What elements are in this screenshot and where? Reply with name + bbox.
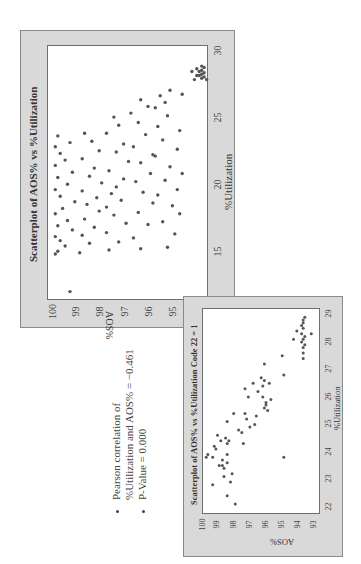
data-point	[269, 398, 272, 401]
tick-label: 100	[47, 304, 58, 319]
data-point	[134, 180, 137, 183]
data-point	[171, 204, 174, 207]
data-point	[218, 464, 221, 467]
data-point	[124, 222, 127, 225]
data-point	[168, 89, 171, 92]
data-point	[178, 212, 181, 215]
data-point	[221, 464, 224, 467]
data-point	[154, 106, 157, 109]
tick-label: 97	[244, 521, 253, 529]
data-point	[139, 161, 142, 164]
data-point	[88, 242, 91, 245]
tick-label: 25	[212, 112, 223, 122]
data-point	[68, 141, 71, 144]
data-point	[151, 201, 154, 204]
inset-chart-y-label: AOS%	[270, 537, 294, 547]
data-point	[240, 431, 243, 434]
tick-label: 15	[212, 247, 223, 257]
data-point	[302, 351, 305, 354]
bullet-pearson: Pearson correlation of %Utilization and …	[110, 322, 136, 500]
inset-chart-points	[203, 309, 321, 515]
data-point	[98, 209, 101, 212]
data-point	[105, 132, 108, 135]
data-point	[54, 164, 57, 167]
data-point	[68, 290, 71, 293]
data-point	[54, 212, 57, 215]
data-point	[302, 321, 305, 324]
tick-label: 99	[212, 521, 221, 529]
data-point	[59, 239, 62, 242]
data-point	[73, 200, 76, 203]
data-point	[234, 503, 237, 506]
data-point	[178, 129, 181, 132]
data-point	[226, 461, 229, 464]
bullet-pearson-line-1: Pearson correlation of	[110, 403, 122, 500]
tick-label: 28	[324, 337, 333, 345]
data-point	[213, 445, 216, 448]
data-point	[81, 234, 84, 237]
data-point	[255, 415, 258, 418]
data-point	[252, 382, 255, 385]
data-point	[223, 467, 226, 470]
data-point	[223, 475, 226, 478]
data-point	[193, 78, 196, 81]
inset-chart-plot-area	[202, 308, 320, 514]
data-point	[190, 70, 193, 73]
data-point	[66, 183, 69, 186]
data-point	[117, 240, 120, 243]
data-point	[56, 250, 59, 253]
data-point	[117, 124, 120, 127]
data-point	[54, 145, 57, 148]
data-point	[56, 176, 59, 179]
data-point	[137, 211, 140, 214]
data-point	[300, 341, 303, 344]
tick-label: 20	[212, 179, 223, 189]
data-point	[300, 332, 303, 335]
data-point	[81, 157, 84, 160]
data-point	[141, 191, 144, 194]
data-point	[226, 420, 229, 423]
tick-label: 97	[118, 307, 129, 317]
data-point	[181, 172, 184, 175]
data-point	[302, 338, 305, 341]
inset-chart-title: Scatterplot of AOS% vs %Utilization Code…	[189, 324, 199, 505]
data-point	[56, 224, 59, 227]
data-point	[211, 483, 214, 486]
data-point	[61, 207, 64, 210]
data-point	[120, 199, 123, 202]
data-point	[154, 154, 157, 157]
data-point	[78, 251, 81, 254]
data-point	[173, 232, 176, 235]
tick-label: 98	[94, 307, 105, 317]
data-point	[202, 71, 205, 74]
data-point	[54, 252, 57, 255]
tick-label: 30	[212, 45, 223, 55]
main-chart-plot-area	[47, 45, 208, 300]
data-point	[195, 74, 198, 77]
correlation-notes: Pearson correlation of %Utilization and …	[110, 322, 149, 512]
data-point	[206, 453, 209, 456]
data-point	[205, 456, 208, 459]
data-point	[261, 384, 264, 387]
bullet-pearson-line-2: %Utilization and AOS% = −0.461	[123, 349, 135, 500]
data-point	[219, 439, 222, 442]
data-point	[205, 78, 208, 81]
data-point	[248, 426, 251, 429]
data-point	[146, 105, 149, 108]
data-point	[112, 115, 115, 118]
data-point	[127, 160, 130, 163]
data-point	[54, 188, 57, 191]
data-point	[139, 98, 142, 101]
data-point	[163, 179, 166, 182]
data-point	[176, 148, 179, 151]
data-point	[156, 125, 159, 128]
data-point	[260, 376, 263, 379]
data-point	[166, 246, 169, 249]
data-point	[122, 177, 125, 180]
data-point	[303, 343, 306, 346]
data-point	[66, 219, 69, 222]
data-point	[292, 338, 295, 341]
data-point	[83, 217, 86, 220]
data-point	[211, 456, 214, 459]
data-point	[144, 133, 147, 136]
